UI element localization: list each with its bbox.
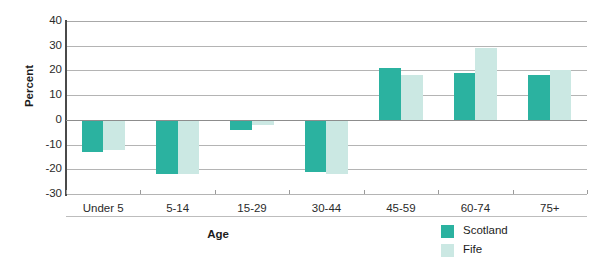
y-tick-label: 10: [28, 89, 62, 101]
y-tick-label: 30: [28, 40, 62, 52]
x-tick-mark: [438, 190, 439, 194]
bar: [475, 48, 497, 120]
bar: [305, 120, 327, 172]
legend-swatch: [441, 244, 454, 257]
x-tick-label: 15-29: [237, 202, 266, 214]
bar: [550, 70, 572, 119]
x-tick-label: 30-44: [312, 202, 341, 214]
bar-chart: Percent 403020100-10-20-30 Under 55-1415…: [0, 0, 608, 265]
y-axis-spine: [65, 20, 67, 196]
legend-item: Scotland: [441, 222, 571, 241]
x-tick-mark: [66, 190, 67, 194]
x-axis-bottom-rule: [66, 216, 587, 217]
x-tick-mark: [587, 190, 588, 194]
x-tick-mark: [140, 190, 141, 194]
bar-group: [305, 21, 348, 194]
zero-line: [66, 120, 587, 121]
bar: [230, 120, 252, 130]
x-tick-label: 75+: [540, 202, 560, 214]
x-tick-label: 60-74: [461, 202, 490, 214]
legend-label: Fife: [463, 243, 482, 255]
bar-group: [230, 21, 273, 194]
legend-swatch: [441, 225, 454, 238]
x-axis: Under 55-1415-2930-4445-5960-7475+: [66, 194, 587, 224]
x-tick-label: 45-59: [386, 202, 415, 214]
x-tick-mark: [289, 190, 290, 194]
legend: ScotlandFife: [441, 222, 571, 260]
bar: [528, 75, 550, 119]
y-tick-label: -20: [28, 163, 62, 175]
bar-group: [156, 21, 199, 194]
y-tick-label: 0: [28, 114, 62, 126]
y-tick-label: -10: [28, 139, 62, 151]
bar-group: [379, 21, 422, 194]
bar: [379, 68, 401, 120]
bar-group: [82, 21, 125, 194]
y-tick-label: 20: [28, 64, 62, 76]
plot-area: [66, 21, 587, 194]
x-axis-label: Age: [148, 228, 288, 240]
bar: [401, 75, 423, 119]
y-tick-label: 40: [28, 15, 62, 27]
bar: [156, 120, 178, 174]
bar: [178, 120, 200, 174]
x-tick-mark: [513, 190, 514, 194]
bar: [326, 120, 348, 174]
x-tick-label: Under 5: [83, 202, 124, 214]
bar-group: [528, 21, 571, 194]
bar: [103, 120, 125, 150]
x-tick-mark: [364, 190, 365, 194]
chart-title: [0, 0, 608, 5]
y-tick-label: -30: [28, 188, 62, 200]
y-axis-tick-labels: 403020100-10-20-30: [22, 21, 62, 194]
legend-item: Fife: [441, 241, 571, 260]
bar: [82, 120, 104, 152]
legend-label: Scotland: [463, 224, 508, 236]
x-tick-label: 5-14: [166, 202, 189, 214]
x-tick-mark: [215, 190, 216, 194]
bar-group: [454, 21, 497, 194]
bar: [454, 73, 476, 120]
